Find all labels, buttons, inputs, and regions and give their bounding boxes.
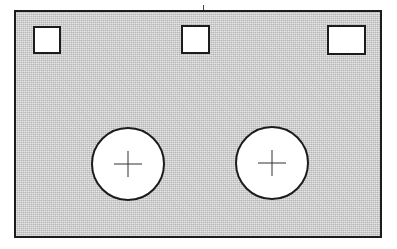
circular-hole-right (235, 126, 309, 200)
square-cutout-right (327, 25, 366, 55)
drawing-canvas: Rectangular plate with square cut-outs a… (0, 0, 397, 249)
square-cutout-center (181, 25, 210, 54)
square-cutout-left (33, 26, 61, 54)
circular-hole-left (91, 127, 165, 201)
drawing-title: Rectangular plate with square cut-outs a… (0, 0, 1, 1)
